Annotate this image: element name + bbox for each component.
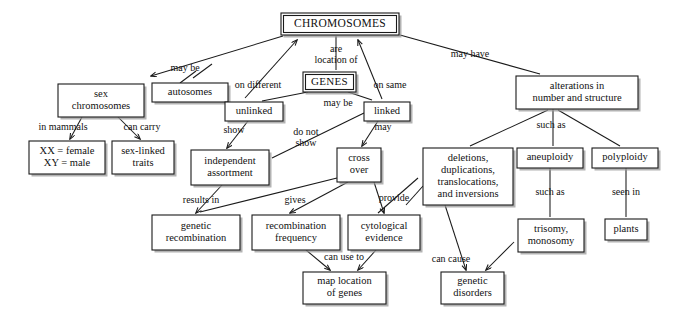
node-deletions: deletions,duplications,translocations,an…: [423, 148, 516, 208]
link-label: on different: [235, 79, 282, 90]
link-may-have: may have: [400, 35, 540, 74]
link-label: provide: [379, 192, 410, 203]
node-label: independentassortment: [204, 155, 255, 178]
node-label: autosomes: [168, 86, 212, 97]
concept-map-canvas: may beon differentarelocation ofon samem…: [0, 0, 690, 320]
link-may-be-sex: may be: [151, 36, 283, 76]
node-map-location: map locationof genes: [303, 272, 389, 307]
concept-map-container: may beon differentarelocation ofon samem…: [0, 0, 690, 320]
link-label: such as: [536, 119, 565, 130]
link-provide: provide: [378, 178, 418, 213]
link-genes-unlinked: [262, 92, 308, 101]
link-in-mammals: in mammals: [38, 117, 87, 139]
node-alterations: alterations innumber and structure: [516, 76, 641, 112]
link-label: do notshow: [293, 126, 319, 148]
node-label: trisomy,monosomy: [528, 223, 575, 246]
node-cytological-evidence: cytologicalevidence: [348, 215, 423, 253]
node-sex-linked-traits: sex-linkedtraits: [112, 141, 177, 177]
node-genetic-disorders: geneticdisorders: [441, 272, 507, 307]
link-line: [486, 242, 514, 270]
link-label: gives: [284, 194, 305, 205]
link-label: such as: [535, 186, 564, 197]
link-label: results in: [183, 194, 219, 205]
link-label: on same: [373, 79, 407, 90]
node-sex-chromosomes: sexchromosomes: [58, 84, 147, 120]
node-autosomes: autosomes: [152, 83, 231, 105]
node-label: crossover: [348, 152, 370, 175]
node-recombination-frequency: recombinationfrequency: [252, 215, 343, 253]
link-label: show: [223, 124, 245, 135]
node-label: aneuploidy: [527, 151, 574, 162]
link-show: show: [223, 121, 248, 148]
node-trisomy-monosomy: trisomy,monosomy: [518, 219, 587, 255]
link-such-as-alterations: such as: [536, 109, 565, 146]
link-results-in: results in: [183, 185, 222, 213]
link-label: in mammals: [38, 121, 87, 132]
node-label: geneticdisorders: [453, 275, 492, 298]
link-label: may have: [451, 48, 490, 59]
link-such-as-aneuploidy: such as: [535, 168, 564, 217]
node-plants: plants: [605, 219, 650, 243]
link-are-location-of: arelocation of: [314, 36, 358, 70]
node-genetic-recombination: geneticrecombination: [152, 215, 243, 253]
node-polyploidy: polyploidy: [592, 148, 661, 171]
node-label: linked: [374, 105, 401, 116]
node-aneuploidy: aneuploidy: [517, 148, 586, 171]
node-label: plants: [613, 223, 638, 234]
link-can-use-to: can use to: [306, 250, 364, 270]
link-label: seen in: [612, 186, 640, 197]
node-independent-assortment: independentassortment: [191, 150, 272, 188]
node-label: cytologicalevidence: [361, 220, 408, 243]
link-can-cause: can cause: [432, 205, 471, 270]
link-label: may be: [323, 97, 353, 108]
link-label: can cause: [432, 253, 471, 264]
node-chromosomes: CHROMOSOMES: [281, 13, 402, 38]
node-xx-xy: XX = femaleXY = male: [29, 141, 108, 177]
link-on-same: on same: [358, 40, 407, 99]
link-line: [262, 92, 308, 101]
link-line: [558, 110, 620, 146]
link-label: can carry: [124, 121, 161, 132]
link-label: can use to: [324, 251, 364, 262]
node-linked: linked: [364, 102, 413, 124]
node-label: XX = femaleXY = male: [40, 145, 95, 168]
link-on-different: on different: [235, 40, 297, 98]
link-gives: gives: [284, 182, 348, 213]
link-alterations-polyploidy: [558, 110, 620, 146]
link-label: arelocation of: [314, 43, 358, 65]
node-cross-over: crossover: [337, 148, 384, 185]
node-label: unlinked: [236, 105, 273, 116]
node-label: polyploidy: [602, 151, 648, 162]
link-can-carry: can carry: [118, 117, 160, 139]
node-unlinked: unlinked: [225, 102, 286, 124]
link-may-cross: may: [362, 121, 392, 146]
link-trisomy-disorders: [486, 242, 514, 270]
node-genes: GENES: [303, 72, 359, 95]
node-label: GENES: [311, 75, 348, 87]
link-seen-in: seen in: [612, 168, 640, 217]
node-label: CHROMOSOMES: [294, 17, 386, 29]
